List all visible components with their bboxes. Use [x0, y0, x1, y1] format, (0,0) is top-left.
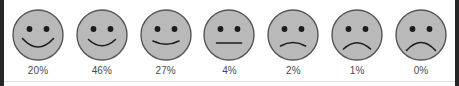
face-label: 46%: [92, 65, 112, 77]
face-label: 20%: [28, 65, 48, 77]
face-label: 27%: [155, 65, 175, 77]
neutral-face-icon: [201, 7, 257, 63]
face-item-very-sad[interactable]: 0%: [390, 7, 452, 77]
slightly-sad-face-icon: [265, 7, 321, 63]
face-item-slightly-happy[interactable]: 27%: [135, 7, 197, 77]
face-label: 2%: [286, 65, 301, 77]
face-label: 0%: [414, 65, 429, 77]
face-item-neutral[interactable]: 4%: [198, 7, 260, 77]
sad-face-icon: [329, 7, 385, 63]
face-item-sad[interactable]: 1%: [326, 7, 388, 77]
happy-face-icon: [74, 7, 130, 63]
very-sad-face-icon: [393, 7, 449, 63]
face-item-slightly-sad[interactable]: 2%: [262, 7, 324, 77]
bottom-rule: [4, 81, 455, 82]
slightly-happy-face-icon: [138, 7, 194, 63]
very-happy-face-icon: [10, 7, 66, 63]
face-label: 1%: [350, 65, 365, 77]
face-item-happy[interactable]: 46%: [71, 7, 133, 77]
smiley-face-scale-figure: 20% 46% 27%: [0, 0, 459, 86]
face-scale-row: 20% 46% 27%: [4, 0, 455, 86]
face-label: 4%: [222, 65, 237, 77]
right-edge-rule: [455, 0, 459, 86]
face-item-very-happy[interactable]: 20%: [7, 7, 69, 77]
